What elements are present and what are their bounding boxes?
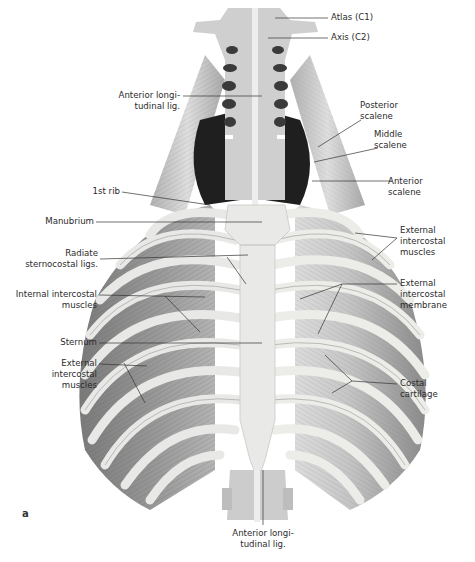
label-anterior-scalene: Anterior scalene [388,176,423,198]
label-anterior-longitudinal-ligament-top: Anterior longi- tudinal lig. [106,90,180,112]
label-manubrium: Manubrium [30,216,94,227]
label-internal-intercostal-muscles: Internal intercostal muscles [4,289,97,311]
label-axis: Axis (C2) [331,32,370,43]
label-costal-cartilage: Costal cartilage [400,378,438,400]
label-external-intercostal-muscles-left: External intercostal muscles [30,358,97,391]
label-radiate-sternocostal-ligaments: Radiate sternocostal ligs. [10,248,98,270]
label-atlas: Atlas (C1) [331,12,373,23]
label-external-intercostal-membrane: External intercostal membrane [400,278,447,311]
rib-cage [79,205,425,510]
label-first-rib: 1st rib [60,186,120,197]
label-external-intercostal-muscles-right: External intercostal muscles [400,225,445,258]
lumbar-spine [222,470,293,522]
label-posterior-scalene: Posterior scalene [360,100,398,122]
label-middle-scalene: Middle scalene [374,129,407,151]
panel-letter: a [22,508,29,519]
label-sternum: Sternum [30,337,97,348]
label-anterior-longitudinal-ligament-bottom: Anterior longi- tudinal lig. [218,528,308,550]
